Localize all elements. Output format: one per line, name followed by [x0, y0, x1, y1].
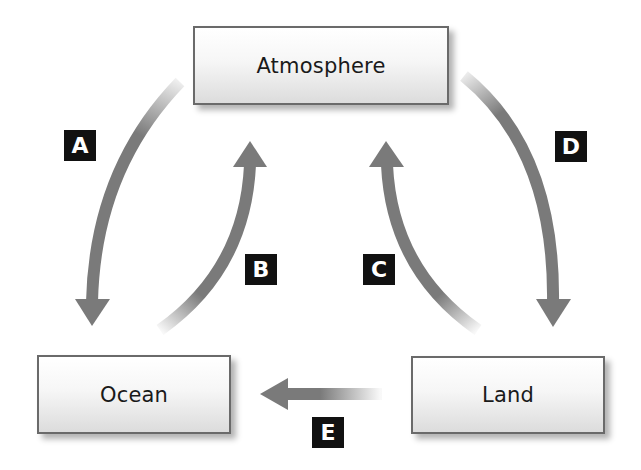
node-land: Land [411, 356, 605, 434]
edge-label-b: B [245, 254, 277, 285]
node-atmosphere: Atmosphere [193, 26, 449, 105]
arrow-c-land-to-atmosphere [369, 141, 478, 330]
node-ocean: Ocean [37, 355, 231, 434]
cycle-diagram: Atmosphere Ocean Land A B C D E [0, 0, 641, 470]
arrow-b-ocean-to-atmosphere [160, 141, 267, 330]
arrow-d-atmosphere-to-land [464, 76, 571, 327]
arrow-a-atmosphere-to-ocean [75, 82, 180, 326]
edge-label-a: A [64, 130, 96, 161]
node-atmosphere-label: Atmosphere [256, 54, 385, 78]
edge-label-c: C [363, 254, 395, 285]
edge-label-e: E [312, 417, 344, 448]
node-land-label: Land [482, 383, 534, 407]
node-ocean-label: Ocean [100, 383, 168, 407]
edge-label-d: D [555, 131, 587, 162]
arrow-e-land-to-ocean [260, 378, 382, 410]
